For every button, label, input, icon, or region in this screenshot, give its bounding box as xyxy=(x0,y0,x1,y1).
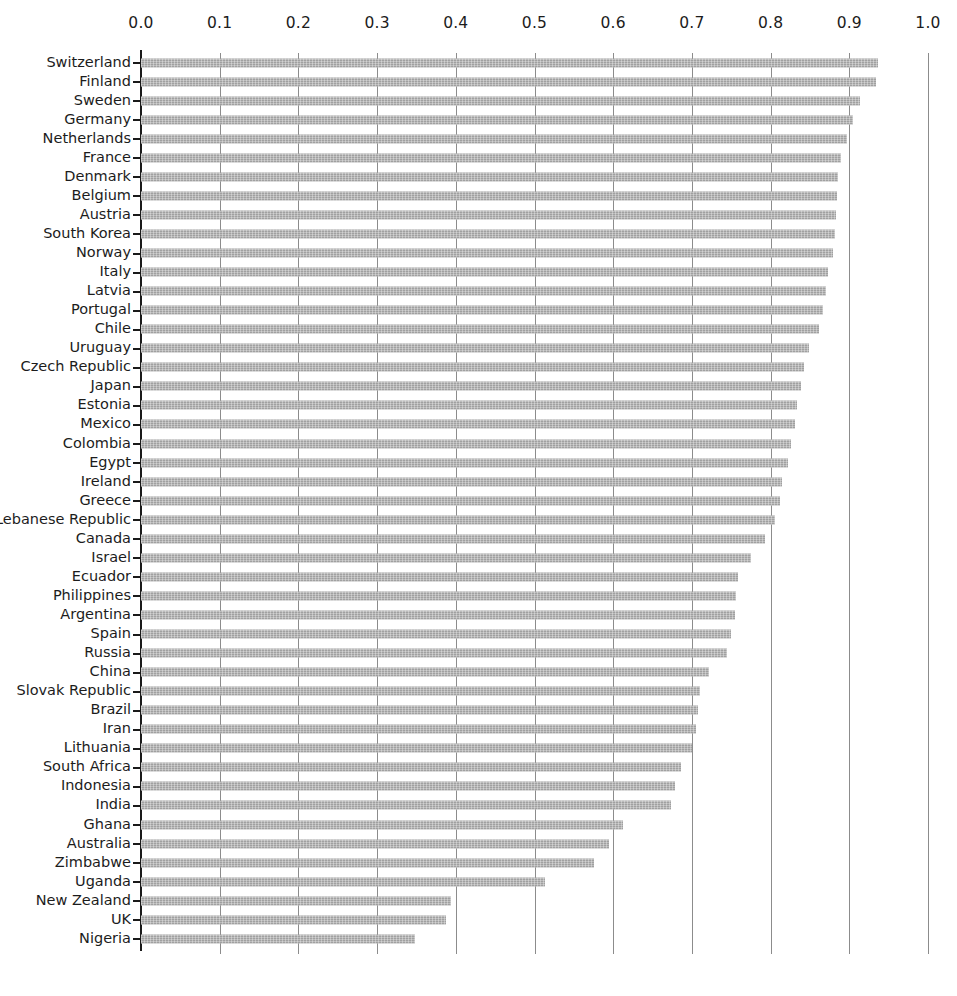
category-label: Canada xyxy=(76,531,131,546)
bar-row: Egypt xyxy=(0,453,957,472)
category-label: Mexico xyxy=(80,417,131,432)
category-label: Philippines xyxy=(53,588,131,603)
bar xyxy=(141,877,545,886)
bar-row: Iran xyxy=(0,720,957,739)
bar xyxy=(141,287,826,296)
category-label: Spain xyxy=(90,626,131,641)
bar-row: Czech Republic xyxy=(0,358,957,377)
bar-row: Chile xyxy=(0,320,957,339)
category-label: Chile xyxy=(95,321,131,336)
x-axis-tick-label: 0.8 xyxy=(758,14,783,32)
bar-row: Belgium xyxy=(0,186,957,205)
bar-row: Uruguay xyxy=(0,339,957,358)
bar xyxy=(141,229,835,238)
bar-row: Brazil xyxy=(0,701,957,720)
bar-rows: SwitzerlandFinlandSwedenGermanyNetherlan… xyxy=(0,53,957,969)
category-label: Indonesia xyxy=(61,779,131,794)
category-label: Greece xyxy=(79,493,131,508)
bar xyxy=(141,439,791,448)
bar xyxy=(141,382,801,391)
bar xyxy=(141,934,415,943)
bar xyxy=(141,820,623,829)
bar xyxy=(141,763,681,772)
bar xyxy=(141,268,828,277)
bar-row: South Africa xyxy=(0,758,957,777)
bar-row: Estonia xyxy=(0,396,957,415)
category-label: Italy xyxy=(100,264,131,279)
category-label: Germany xyxy=(64,112,131,127)
bar xyxy=(141,725,696,734)
category-label: Denmark xyxy=(64,169,131,184)
bar-chart: 0.00.10.20.30.40.50.60.70.80.91.0 Switze… xyxy=(0,0,957,996)
category-label: Austria xyxy=(80,207,131,222)
category-label: Uganda xyxy=(75,874,131,889)
category-label: Zimbabwe xyxy=(55,855,131,870)
bar xyxy=(141,249,833,258)
category-label: Ecuador xyxy=(72,569,131,584)
x-axis-tick-label: 0.5 xyxy=(522,14,547,32)
bar-row: Italy xyxy=(0,263,957,282)
category-label: Lithuania xyxy=(64,740,131,755)
category-label: Ireland xyxy=(81,474,131,489)
bar xyxy=(141,344,809,353)
bar-row: Norway xyxy=(0,244,957,263)
bar xyxy=(141,553,751,562)
category-label: Czech Republic xyxy=(21,359,131,374)
bar-row: Austria xyxy=(0,205,957,224)
bar-row: Japan xyxy=(0,377,957,396)
bar xyxy=(141,915,446,924)
bar-row: Ireland xyxy=(0,472,957,491)
x-axis-tick-label: 1.0 xyxy=(915,14,940,32)
bar xyxy=(141,801,671,810)
category-label: Colombia xyxy=(63,436,131,451)
bar xyxy=(141,896,451,905)
bar xyxy=(141,477,782,486)
category-label: China xyxy=(90,664,131,679)
category-label: Egypt xyxy=(89,455,131,470)
bar-row: France xyxy=(0,148,957,167)
x-axis-tick-label: 0.1 xyxy=(207,14,232,32)
bar xyxy=(141,839,609,848)
x-axis-tick-label: 0.9 xyxy=(837,14,862,32)
category-label: New Zealand xyxy=(36,893,131,908)
category-label: Uruguay xyxy=(69,340,131,355)
category-label: Japan xyxy=(91,379,131,394)
bar xyxy=(141,363,804,372)
category-label: Iran xyxy=(103,721,131,736)
bar-row: Zimbabwe xyxy=(0,853,957,872)
category-label: South Korea xyxy=(43,226,131,241)
bar-row: Nigeria xyxy=(0,929,957,948)
bar xyxy=(141,515,775,524)
bar-row: Indonesia xyxy=(0,777,957,796)
bar xyxy=(141,668,709,677)
bar xyxy=(141,172,838,181)
bar xyxy=(141,401,797,410)
bar xyxy=(141,649,727,658)
bar xyxy=(141,572,738,581)
x-axis-tick-label: 0.0 xyxy=(128,14,153,32)
bar xyxy=(141,77,876,86)
bar xyxy=(141,210,836,219)
category-label: France xyxy=(83,150,131,165)
bar-row: Portugal xyxy=(0,301,957,320)
category-label: Sweden xyxy=(74,93,131,108)
bar-row: Philippines xyxy=(0,586,957,605)
category-label: Estonia xyxy=(78,398,131,413)
bar-row: Lebanese Republic xyxy=(0,510,957,529)
category-label: Norway xyxy=(76,245,131,260)
bar-row: Slovak Republic xyxy=(0,682,957,701)
bar xyxy=(141,191,837,200)
category-label: India xyxy=(95,798,131,813)
x-axis-tick-labels: 0.00.10.20.30.40.50.60.70.80.91.0 xyxy=(0,14,957,38)
bar-row: India xyxy=(0,796,957,815)
category-label: Belgium xyxy=(72,188,131,203)
category-label: Russia xyxy=(84,645,131,660)
bar-row: South Korea xyxy=(0,224,957,243)
bar-row: Switzerland xyxy=(0,53,957,72)
category-label: Portugal xyxy=(71,302,131,317)
bar xyxy=(141,153,841,162)
x-axis-tick-label: 0.7 xyxy=(679,14,704,32)
category-label: Australia xyxy=(67,836,131,851)
bar xyxy=(141,496,780,505)
category-label: Argentina xyxy=(60,607,131,622)
